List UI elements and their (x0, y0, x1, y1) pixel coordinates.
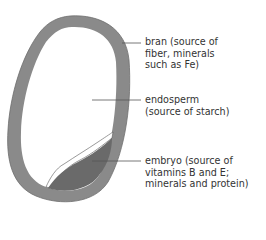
embryo-label: embryo (source of vitamins B and E; mine… (145, 155, 248, 190)
endosperm-label: endosperm (source of starch) (145, 94, 229, 117)
bran-label: bran (source of fiber, minerals such as … (145, 36, 218, 71)
